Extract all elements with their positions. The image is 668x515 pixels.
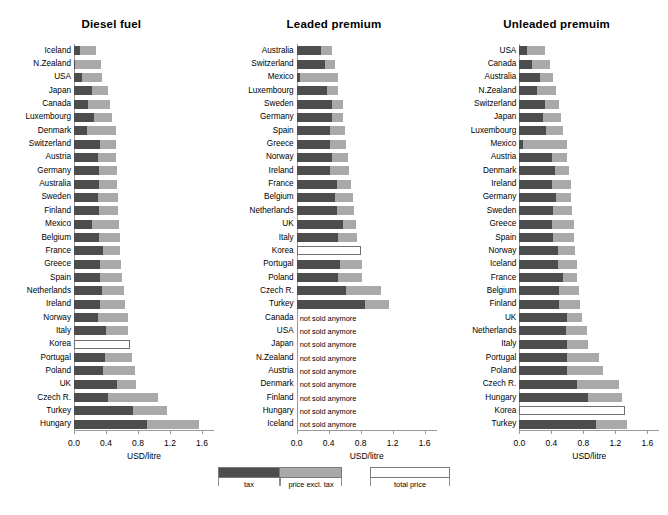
- bar-segment-price-excl-tax[interactable]: [552, 153, 567, 162]
- bar-segment-price-excl-tax[interactable]: [567, 313, 581, 322]
- bar-segment-tax[interactable]: [297, 206, 337, 215]
- bar-segment-price-excl-tax[interactable]: [555, 166, 569, 175]
- bar-segment-price-excl-tax[interactable]: [106, 326, 128, 335]
- bar-segment-tax[interactable]: [519, 193, 556, 202]
- bar-segment-price-excl-tax[interactable]: [117, 380, 136, 389]
- bar-segment-price-excl-tax[interactable]: [540, 73, 553, 82]
- bar-row[interactable]: Icelandnot sold anymore: [297, 420, 437, 429]
- bar-segment-tax[interactable]: [74, 406, 133, 415]
- bar-segment-price-excl-tax[interactable]: [559, 300, 580, 309]
- bar-segment-tax[interactable]: [74, 286, 102, 295]
- bar-row[interactable]: Denmarknot sold anymore: [297, 380, 437, 389]
- bar-segment-tax[interactable]: [519, 353, 567, 362]
- bar-row[interactable]: Korea: [74, 340, 214, 349]
- bar-row[interactable]: Netherlands: [297, 206, 437, 215]
- bar-segment-tax[interactable]: [519, 100, 545, 109]
- bar-segment-tax[interactable]: [74, 193, 98, 202]
- bar-row[interactable]: Korea: [519, 406, 659, 415]
- bar-segment-price-excl-tax[interactable]: [330, 126, 344, 135]
- bar-segment-price-excl-tax[interactable]: [552, 220, 574, 229]
- bar-segment-price-excl-tax[interactable]: [103, 246, 121, 255]
- bar-segment-tax[interactable]: [519, 206, 553, 215]
- bar-row[interactable]: Belgium: [74, 233, 214, 242]
- bar-segment-price-excl-tax[interactable]: [87, 126, 116, 135]
- bar-segment-total-price[interactable]: [519, 406, 625, 415]
- bar-row[interactable]: Australia: [519, 73, 659, 82]
- bar-row[interactable]: N.Zealand: [74, 60, 214, 69]
- bar-row[interactable]: Italy: [74, 326, 214, 335]
- bar-row[interactable]: Czech R.: [519, 380, 659, 389]
- bar-row[interactable]: Korea: [297, 246, 437, 255]
- bar-segment-tax[interactable]: [297, 166, 331, 175]
- bar-row[interactable]: Luxembourg: [74, 113, 214, 122]
- bar-row[interactable]: Finland: [74, 206, 214, 215]
- bar-segment-price-excl-tax[interactable]: [98, 193, 118, 202]
- bar-segment-tax[interactable]: [74, 73, 82, 82]
- bar-row[interactable]: France: [519, 273, 659, 282]
- bar-segment-tax[interactable]: [297, 233, 339, 242]
- bar-segment-tax[interactable]: [519, 113, 543, 122]
- bar-segment-tax[interactable]: [74, 206, 99, 215]
- bar-segment-tax[interactable]: [74, 366, 103, 375]
- bar-segment-price-excl-tax[interactable]: [523, 140, 568, 149]
- bar-segment-price-excl-tax[interactable]: [566, 326, 587, 335]
- bar-segment-price-excl-tax[interactable]: [133, 406, 167, 415]
- bar-row[interactable]: UK: [297, 220, 437, 229]
- bar-segment-price-excl-tax[interactable]: [99, 206, 118, 215]
- bar-row[interactable]: Sweden: [297, 100, 437, 109]
- bar-segment-tax[interactable]: [74, 326, 106, 335]
- bar-segment-tax[interactable]: [297, 86, 327, 95]
- bar-row[interactable]: Japannot sold anymore: [297, 340, 437, 349]
- bar-segment-tax[interactable]: [519, 73, 540, 82]
- bar-segment-tax[interactable]: [74, 233, 99, 242]
- bar-segment-tax[interactable]: [74, 180, 99, 189]
- bar-row[interactable]: Norway: [519, 246, 659, 255]
- bar-row[interactable]: Mexico: [519, 140, 659, 149]
- bar-segment-tax[interactable]: [519, 86, 537, 95]
- bar-segment-tax[interactable]: [519, 420, 596, 429]
- bar-row[interactable]: Poland: [519, 366, 659, 375]
- bar-segment-tax[interactable]: [519, 286, 559, 295]
- bar-segment-price-excl-tax[interactable]: [552, 180, 570, 189]
- bar-segment-tax[interactable]: [519, 153, 552, 162]
- bar-row[interactable]: Spain: [519, 233, 659, 242]
- bar-row[interactable]: N.Zealandnot sold anymore: [297, 353, 437, 362]
- bar-segment-tax[interactable]: [519, 380, 577, 389]
- bar-row[interactable]: USA: [519, 46, 659, 55]
- bar-row[interactable]: Hungary: [519, 393, 659, 402]
- bar-segment-tax[interactable]: [74, 126, 87, 135]
- bar-row[interactable]: Czech R.: [74, 393, 214, 402]
- bar-segment-price-excl-tax[interactable]: [340, 260, 362, 269]
- bar-row[interactable]: Germany: [74, 166, 214, 175]
- bar-row[interactable]: Poland: [297, 273, 437, 282]
- bar-segment-price-excl-tax[interactable]: [100, 140, 116, 149]
- bar-row[interactable]: Spain: [297, 126, 437, 135]
- bar-row[interactable]: Austrianot sold anymore: [297, 366, 437, 375]
- bar-segment-price-excl-tax[interactable]: [558, 260, 577, 269]
- bar-row[interactable]: Hungary: [74, 420, 214, 429]
- bar-segment-tax[interactable]: [297, 153, 332, 162]
- bar-segment-price-excl-tax[interactable]: [588, 393, 622, 402]
- bar-row[interactable]: Japan: [519, 113, 659, 122]
- bar-segment-price-excl-tax[interactable]: [99, 180, 117, 189]
- bar-row[interactable]: Greece: [297, 140, 437, 149]
- bar-segment-tax[interactable]: [297, 126, 331, 135]
- bar-row[interactable]: Sweden: [519, 206, 659, 215]
- bar-segment-price-excl-tax[interactable]: [321, 46, 332, 55]
- bar-segment-tax[interactable]: [519, 340, 566, 349]
- bar-row[interactable]: Germany: [297, 113, 437, 122]
- bar-row[interactable]: Australia: [74, 180, 214, 189]
- bar-segment-tax[interactable]: [519, 180, 552, 189]
- bar-row[interactable]: Japan: [74, 86, 214, 95]
- bar-segment-tax[interactable]: [297, 180, 337, 189]
- bar-segment-price-excl-tax[interactable]: [82, 73, 102, 82]
- bar-segment-tax[interactable]: [519, 313, 567, 322]
- bar-row[interactable]: Ireland: [297, 166, 437, 175]
- bar-row[interactable]: Spain: [74, 273, 214, 282]
- bar-segment-price-excl-tax[interactable]: [75, 60, 101, 69]
- bar-segment-tax[interactable]: [74, 420, 147, 429]
- bar-segment-tax[interactable]: [74, 353, 105, 362]
- bar-row[interactable]: Australia: [297, 46, 437, 55]
- bar-segment-price-excl-tax[interactable]: [102, 286, 124, 295]
- bar-segment-tax[interactable]: [74, 273, 100, 282]
